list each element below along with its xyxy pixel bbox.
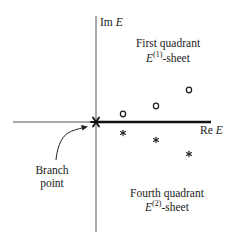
pole-circle [186,87,191,93]
pole-asterisk-icon [154,137,159,143]
fourth-quadrant-title: Fourth quadrant [130,187,205,200]
arrowhead-icon [81,125,88,131]
first-quadrant-title: First quadrant [136,37,201,50]
branch-label-line1: Branch [35,164,68,176]
imaginary-axis-label: Im E [100,16,123,28]
complex-energy-plane-diagram: Im E Re E First quadrant E(1)-sheet Four… [0,0,237,242]
first-sheet-label: E(1)-sheet [145,50,191,64]
pole-circle [153,103,158,109]
pole-circle [120,111,125,117]
second-sheet-label: E(2)-sheet [144,199,190,213]
first-sheet-poles [120,87,191,117]
real-axis-label: Re E [200,124,223,136]
pole-asterisk-icon [187,151,192,157]
pole-asterisk-icon [121,130,126,136]
branch-point-arrow [56,128,84,161]
second-sheet-poles [121,130,192,157]
branch-label-line2: point [40,177,64,190]
